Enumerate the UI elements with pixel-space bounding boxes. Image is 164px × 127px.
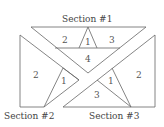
piece-label: 2	[33, 70, 39, 80]
diagram-canvas: 2 1 3 4 Section #1 2 1 Section #2 1 2 3 …	[0, 0, 164, 127]
section-1-outline	[31, 27, 146, 73]
piece-label: 1	[85, 37, 91, 47]
piece-label: 1	[108, 76, 114, 86]
dissection-diagram: 2 1 3 4 Section #1 2 1 Section #2 1 2 3 …	[0, 0, 164, 127]
section-2-inner-triangle	[44, 68, 79, 107]
piece-label: 2	[62, 35, 68, 45]
section-3-inner-triangle	[97, 68, 131, 107]
piece-label: 3	[109, 35, 115, 45]
section-1: 2 1 3 4 Section #1	[31, 14, 146, 73]
section-3-title: Section #3	[89, 111, 140, 121]
piece-label: 4	[85, 54, 91, 64]
piece-label: 3	[94, 90, 100, 100]
section-1-title: Section #1	[62, 14, 112, 24]
piece-label: 2	[136, 70, 142, 80]
piece-label: 1	[61, 76, 67, 86]
section-2-title: Section #2	[4, 111, 54, 121]
